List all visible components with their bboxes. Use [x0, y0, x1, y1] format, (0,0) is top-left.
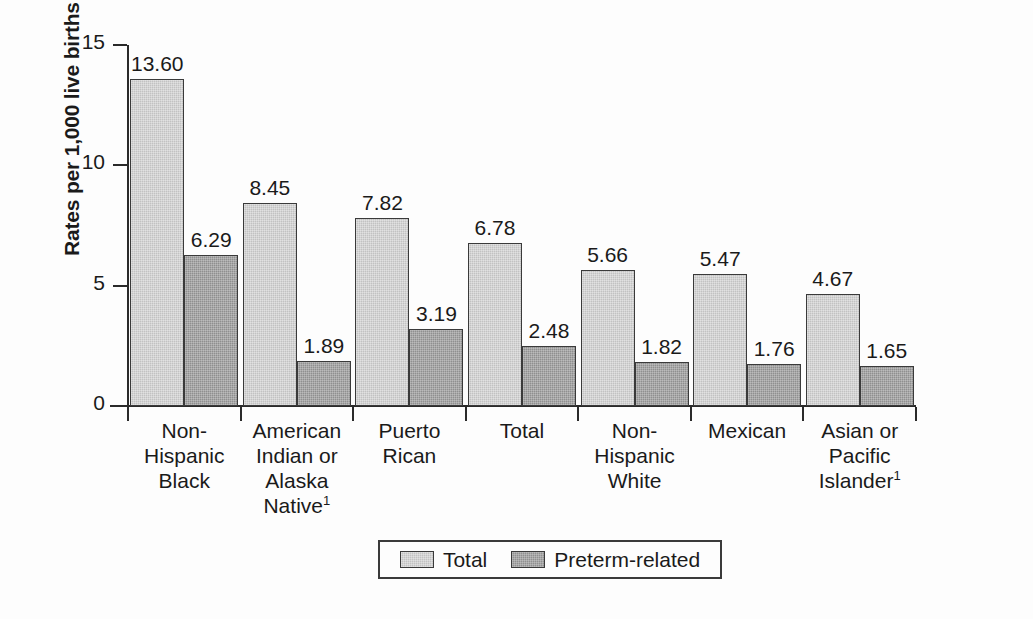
bar-total[interactable]: 5.66 [581, 270, 635, 406]
chart-legend: TotalPreterm-related [378, 540, 722, 579]
bar-value-label: 1.89 [303, 334, 344, 358]
bar-total[interactable]: 7.82 [355, 218, 409, 406]
bar-value-label: 1.76 [754, 337, 795, 361]
bar-group: 7.823.19 [353, 45, 466, 406]
y-tick-label: 15 [60, 30, 105, 54]
y-tick-mark [113, 164, 127, 166]
bar-value-label: 8.45 [249, 176, 290, 200]
x-axis-category-label: Asian or Pacific Islander1 [803, 418, 916, 493]
legend-item[interactable]: Preterm-related [511, 548, 700, 572]
bar-value-label: 13.60 [131, 52, 184, 76]
plot-area: 13.606.298.451.897.823.196.782.485.661.8… [128, 45, 916, 406]
bar-group: 13.606.29 [128, 45, 241, 406]
bar-value-label: 5.66 [587, 243, 628, 267]
bar-value-label: 6.29 [191, 228, 232, 252]
x-axis-category-label: Puerto Rican [353, 418, 466, 468]
y-tick-label: 10 [60, 150, 105, 174]
legend-label: Preterm-related [554, 548, 700, 572]
y-tick-label: 5 [60, 271, 105, 295]
x-axis-category-label: Mexican [691, 418, 804, 443]
bar-value-label: 1.82 [641, 335, 682, 359]
x-axis-category-label: Total [466, 418, 579, 443]
bar-group: 6.782.48 [466, 45, 579, 406]
legend-label: Total [443, 548, 487, 572]
bar-group: 8.451.89 [241, 45, 354, 406]
bar-preterm-related[interactable]: 1.82 [635, 362, 689, 406]
bar-group: 5.471.76 [691, 45, 804, 406]
legend-item[interactable]: Total [400, 548, 487, 572]
bar-total[interactable]: 8.45 [243, 203, 297, 406]
y-tick-mark [113, 405, 127, 407]
legend-swatch-icon [511, 551, 545, 568]
legend-swatch-icon [400, 551, 434, 568]
bar-preterm-related[interactable]: 1.65 [860, 366, 914, 406]
chart-page: Rates per 1,000 live births 051015 13.60… [0, 0, 1033, 619]
bar-preterm-related[interactable]: 1.89 [297, 361, 351, 406]
bar-preterm-related[interactable]: 3.19 [409, 329, 463, 406]
bar-value-label: 7.82 [362, 191, 403, 215]
footnote-marker: 1 [323, 493, 330, 508]
bar-total[interactable]: 4.67 [806, 294, 860, 406]
y-tick-mark [113, 44, 127, 46]
bar-group: 4.671.65 [803, 45, 916, 406]
bar-preterm-related[interactable]: 6.29 [184, 255, 238, 406]
x-axis-category-label: Non- Hispanic Black [128, 418, 241, 493]
bar-total[interactable]: 13.60 [130, 79, 184, 406]
x-axis-category-label: American Indian or Alaska Native1 [241, 418, 354, 518]
footnote-marker: 1 [893, 468, 900, 483]
bar-value-label: 6.78 [475, 216, 516, 240]
bar-value-label: 4.67 [812, 267, 853, 291]
bar-preterm-related[interactable]: 2.48 [522, 346, 576, 406]
y-tick-label: 0 [60, 391, 105, 415]
bar-value-label: 3.19 [416, 302, 457, 326]
y-tick-mark [113, 285, 127, 287]
bar-value-label: 2.48 [529, 319, 570, 343]
bar-value-label: 1.65 [866, 339, 907, 363]
bar-value-label: 5.47 [700, 247, 741, 271]
bar-preterm-related[interactable]: 1.76 [747, 364, 801, 406]
bar-total[interactable]: 5.47 [693, 274, 747, 406]
x-axis-category-label: Non- Hispanic White [578, 418, 691, 493]
bar-group: 5.661.82 [578, 45, 691, 406]
bar-total[interactable]: 6.78 [468, 243, 522, 406]
